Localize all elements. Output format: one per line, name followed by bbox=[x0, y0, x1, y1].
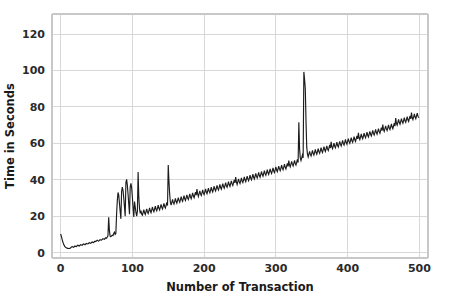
y-tick-label: 80 bbox=[30, 101, 46, 114]
y-tick-label: 120 bbox=[22, 28, 45, 41]
x-tick-label: 300 bbox=[264, 262, 287, 275]
y-tick-label: 20 bbox=[30, 210, 46, 223]
y-tick-label: 0 bbox=[37, 247, 45, 260]
x-tick-label: 0 bbox=[57, 262, 65, 275]
y-tick-label: 60 bbox=[30, 137, 46, 150]
x-axis-title: Number of Transaction bbox=[166, 280, 314, 294]
y-tick-label: 100 bbox=[22, 64, 45, 77]
y-axis-title: Time in Seconds bbox=[3, 83, 17, 189]
x-tick-label: 500 bbox=[408, 262, 431, 275]
y-tick-label: 40 bbox=[30, 174, 46, 187]
chart-figure: 0100200300400500 020406080100120 Number … bbox=[0, 0, 449, 306]
line-chart-canvas: 0100200300400500 020406080100120 Number … bbox=[0, 0, 449, 306]
x-tick-label: 200 bbox=[193, 262, 216, 275]
x-tick-label: 400 bbox=[336, 262, 359, 275]
x-tick-label: 100 bbox=[121, 262, 144, 275]
